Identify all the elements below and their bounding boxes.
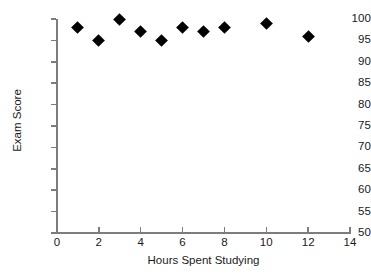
data-point-marker [260,17,273,30]
data-point-marker [302,30,315,43]
x-axis-title: Hours Spent Studying [56,254,351,267]
y-axis-title: Exam Score [11,66,24,176]
data-point-marker [72,21,85,34]
data-point-marker [176,21,189,34]
data-point-marker [155,34,168,47]
data-point-marker [197,25,210,38]
scatter-chart: 50556065707580859095100 02468101214 Hour… [0,0,371,276]
data-point-marker [218,21,231,34]
data-point-marker [134,25,147,38]
data-point-marker [92,34,105,47]
plot-area [0,0,371,276]
data-point-marker [113,13,126,26]
